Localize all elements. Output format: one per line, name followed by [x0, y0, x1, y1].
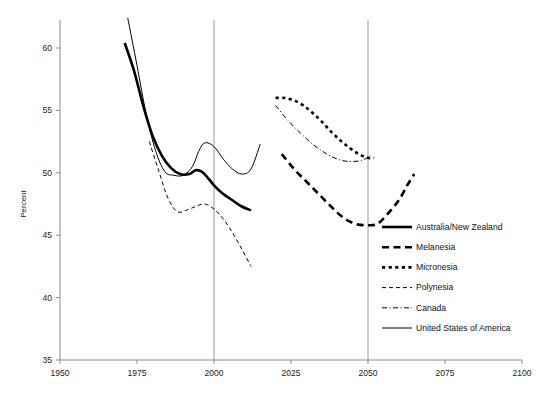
legend-label-micronesia: Micronesia	[416, 262, 458, 272]
series-line-united-states-of-america	[128, 18, 260, 176]
chart-legend: Australia/New ZealandMelanesiaMicronesia…	[382, 222, 511, 333]
series-line-australia-new-zealand	[125, 43, 251, 210]
line-chart: 3540455055601950197520002025205020752100…	[0, 0, 540, 411]
legend-label-australia-new-zealand: Australia/New Zealand	[416, 222, 503, 232]
y-axis-title-group: Percent	[19, 189, 28, 217]
x-tick-label-2050: 2050	[359, 368, 378, 378]
legend-label-melanesia: Melanesia	[416, 242, 455, 252]
reference-lines-group	[214, 20, 368, 360]
y-tick-label-45: 45	[43, 230, 53, 240]
x-tick-label-2000: 2000	[205, 368, 224, 378]
x-tick-label-2100: 2100	[513, 368, 532, 378]
y-tick-label-40: 40	[43, 293, 53, 303]
legend-label-polynesia: Polynesia	[416, 282, 453, 292]
x-tick-label-2075: 2075	[436, 368, 455, 378]
y-tick-label-50: 50	[43, 168, 53, 178]
series-group	[125, 18, 415, 266]
x-tick-label-1975: 1975	[128, 368, 147, 378]
chart-container: 3540455055601950197520002025205020752100…	[0, 0, 540, 411]
y-tick-label-55: 55	[43, 105, 53, 115]
y-tick-label-35: 35	[43, 355, 53, 365]
legend-label-united-states-of-america: United States of America	[416, 323, 511, 333]
x-tick-label-2025: 2025	[282, 368, 301, 378]
x-tick-label-1950: 1950	[51, 368, 70, 378]
series-line-melanesia	[282, 154, 414, 225]
legend-label-canada: Canada	[416, 303, 446, 313]
y-axis-title: Percent	[19, 189, 28, 217]
y-tick-label-60: 60	[43, 43, 53, 53]
axes-group	[60, 20, 522, 360]
series-line-micronesia	[276, 98, 375, 158]
